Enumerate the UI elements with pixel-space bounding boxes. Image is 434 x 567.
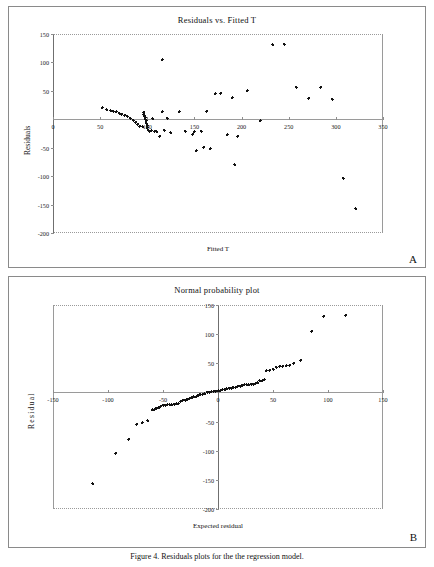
- panel-b-x-axis-label: Expected residual: [193, 522, 243, 530]
- data-point: [146, 419, 149, 422]
- plot-a-xtick-label: 0: [51, 123, 54, 130]
- plot-b-xtick-label: 50: [270, 396, 276, 403]
- panel-b-letter: B: [410, 531, 417, 543]
- plot-a-xtick: [194, 117, 195, 120]
- data-point: [292, 362, 295, 365]
- plot-b-ytick-label: 150: [192, 302, 214, 309]
- plot-b-xtick: [328, 390, 329, 393]
- data-point: [141, 421, 144, 424]
- plot-a-ytick-label: 150: [27, 31, 49, 38]
- panel-b-title: Normal probability plot: [9, 285, 425, 295]
- panel-a: Residuals vs. Fitted T 05010015020025030…: [8, 6, 426, 268]
- data-point: [310, 330, 313, 333]
- plot-b-xtick: [108, 390, 109, 393]
- plot-a-ytick: [51, 62, 54, 63]
- plot-a-xtick: [53, 117, 54, 120]
- data-point: [319, 86, 322, 89]
- panel-a-y-axis-label: Residuals: [23, 126, 32, 155]
- plot-a-xtick-label: 250: [284, 123, 293, 130]
- plot-a-xtick-label: 350: [378, 123, 387, 130]
- panel-b-y-axis-label: Residual: [27, 392, 36, 429]
- plot-a-ytick-label: -200: [27, 230, 49, 237]
- data-point: [271, 43, 274, 46]
- plot-a-ytick-label: 50: [27, 87, 49, 94]
- figure-caption: Figure 4. Residuals plots for the the re…: [0, 552, 434, 561]
- data-point: [219, 92, 222, 95]
- data-point: [226, 133, 229, 136]
- data-point: [114, 452, 117, 455]
- data-point: [233, 163, 236, 166]
- plot-a-ytick: [51, 148, 54, 149]
- panel-b-plot-area: -150-100-50050100150-200-150-100-5050100…: [53, 305, 383, 509]
- plot-a-axis-vertical: [53, 34, 54, 233]
- panel-a-plot-area: 050100150200250300350-200-150-100-505010…: [53, 34, 383, 233]
- plot-a-xtick: [336, 117, 337, 120]
- data-point: [307, 97, 310, 100]
- plot-a-ytick-label: -100: [27, 173, 49, 180]
- data-point: [344, 314, 347, 317]
- data-point: [161, 110, 164, 113]
- data-point: [166, 117, 169, 120]
- plot-a-ytick: [51, 34, 54, 35]
- panel-a-plot-frame: [53, 34, 383, 233]
- panel-a-title: Residuals vs. Fitted T: [9, 15, 425, 25]
- data-point: [101, 106, 104, 109]
- data-point: [354, 207, 357, 210]
- plot-b-ytick-label: -150: [192, 476, 214, 483]
- data-point: [202, 146, 205, 149]
- plot-b-ytick: [216, 363, 219, 364]
- data-point: [135, 423, 138, 426]
- data-point: [184, 130, 187, 133]
- plot-a-ytick-label: -150: [27, 201, 49, 208]
- data-point: [259, 119, 262, 122]
- data-point: [91, 482, 94, 485]
- data-point: [246, 89, 249, 92]
- data-point: [205, 110, 208, 113]
- data-point: [263, 378, 266, 381]
- plot-b-ytick-label: -200: [192, 506, 214, 513]
- data-point: [193, 130, 196, 133]
- panel-a-letter: A: [409, 253, 417, 265]
- plot-b-xtick: [383, 390, 384, 393]
- data-point: [342, 177, 345, 180]
- plot-b-ytick-label: -100: [192, 447, 214, 454]
- plot-a-xtick-label: 300: [331, 123, 340, 130]
- data-point: [163, 129, 166, 132]
- data-point: [178, 110, 181, 113]
- plot-a-ytick: [51, 176, 54, 177]
- plot-b-ytick: [216, 451, 219, 452]
- data-point: [141, 125, 144, 128]
- plot-b-xtick: [53, 390, 54, 393]
- data-point: [151, 117, 154, 120]
- data-point: [236, 135, 239, 138]
- figure-page: Residuals vs. Fitted T 05010015020025030…: [0, 0, 434, 567]
- plot-a-ytick-label: 100: [27, 59, 49, 66]
- data-point: [322, 315, 325, 318]
- plot-b-xtick-label: 150: [378, 396, 387, 403]
- plot-a-xtick-label: 200: [237, 123, 246, 130]
- panel-a-x-axis-label: Fitted T: [207, 245, 229, 253]
- data-point: [127, 438, 130, 441]
- data-point: [231, 96, 234, 99]
- plot-b-xtick-label: -150: [47, 396, 58, 403]
- plot-b-ytick: [216, 422, 219, 423]
- data-point: [169, 131, 172, 134]
- plot-b-ytick-label: 50: [192, 360, 214, 367]
- data-point: [200, 130, 203, 133]
- plot-a-ytick: [51, 205, 54, 206]
- plot-a-ytick: [51, 233, 54, 234]
- plot-a-ytick: [51, 91, 54, 92]
- plot-b-ytick: [216, 480, 219, 481]
- plot-b-xtick: [163, 390, 164, 393]
- panel-b: Normal probability plot -150-100-5005010…: [8, 276, 426, 548]
- data-point: [299, 359, 302, 362]
- data-point: [283, 43, 286, 46]
- data-point: [195, 149, 198, 152]
- plot-b-ytick: [216, 509, 219, 510]
- data-point: [331, 98, 334, 101]
- plot-a-xtick: [383, 117, 384, 120]
- data-point: [161, 58, 164, 61]
- data-point: [288, 364, 291, 367]
- plot-b-ytick: [216, 334, 219, 335]
- plot-a-xtick: [100, 117, 101, 120]
